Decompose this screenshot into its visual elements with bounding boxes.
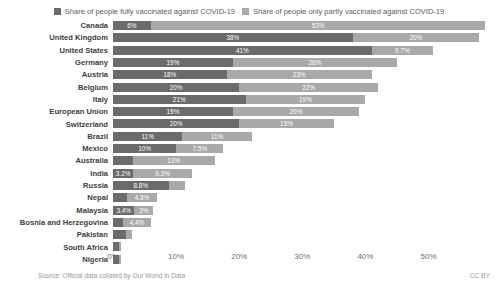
chart-bar-row[interactable]: Canada6%53% [0, 20, 498, 32]
bar-value-label: 26% [308, 58, 321, 67]
bar-value-label: 19% [167, 107, 180, 116]
bar-segment-partly [126, 230, 132, 239]
bar-value-label: 4.8% [135, 193, 150, 202]
category-label: Australia [0, 156, 108, 166]
stacked-bar: 19%26% [113, 58, 397, 67]
category-label: Italy [0, 95, 108, 105]
bar-segment-partly: 19% [246, 95, 366, 104]
stacked-bar: 20%22% [113, 83, 378, 92]
bar-segment-full: 11% [113, 132, 182, 141]
chart-plot-area: Canada6%53%United Kingdom38%20%United St… [0, 20, 498, 250]
chart-bar-row[interactable]: Germany19%26% [0, 57, 498, 69]
stacked-bar: 8.8% [113, 181, 185, 190]
bar-value-label: 3.2% [116, 169, 131, 178]
category-label: Belgium [0, 83, 108, 93]
stacked-bar: 38%20% [113, 33, 479, 42]
bar-segment-full: 20% [113, 83, 239, 92]
legend-label: Share of people only partly vaccinated a… [253, 7, 444, 16]
stacked-bar [113, 230, 132, 239]
bar-segment-partly: 53% [151, 21, 485, 30]
category-label: India [0, 169, 108, 179]
bar-value-label: 19% [299, 95, 312, 104]
bar-value-label: 8.8% [133, 181, 148, 190]
bar-segment-full [113, 193, 127, 202]
bar-segment-full [113, 156, 133, 165]
bar-segment-partly: 11% [182, 132, 251, 141]
x-axis-tick-label: 10% [168, 252, 184, 261]
bar-segment-partly: 7.5% [176, 144, 223, 153]
category-label: United Kingdom [0, 33, 108, 43]
stacked-bar: 19%20% [113, 107, 359, 116]
chart-bar-row[interactable]: Switzerland20%15% [0, 118, 498, 130]
chart-bar-row[interactable]: United States41%9.7% [0, 45, 498, 57]
stacked-bar: 3.4%3% [113, 206, 153, 215]
chart-bar-row[interactable]: European Union19%20% [0, 106, 498, 118]
legend-item-full[interactable]: Share of people fully vaccinated against… [54, 7, 235, 16]
stacked-bar: 10%7.5% [113, 144, 223, 153]
chart-bar-row[interactable]: Mexico10%7.5% [0, 143, 498, 155]
bar-segment-partly: 4.8% [127, 193, 157, 202]
bar-value-label: 20% [170, 83, 183, 92]
chart-bar-row[interactable]: Malaysia3.4%3% [0, 205, 498, 217]
stacked-bar: 4.4% [113, 218, 151, 227]
chart-bar-row[interactable]: United Kingdom38%20% [0, 32, 498, 44]
chart-legend: Share of people fully vaccinated against… [0, 4, 498, 18]
chart-bar-row[interactable]: Pakistan [0, 229, 498, 241]
bar-segment-full: 20% [113, 119, 239, 128]
stacked-bar: 3.2%9.3% [113, 169, 192, 178]
chart-footer: Source: Official data collated by Our Wo… [0, 272, 498, 286]
bar-segment-partly: 20% [353, 33, 479, 42]
chart-bar-row[interactable]: Brazil11%11% [0, 131, 498, 143]
bar-value-label: 15% [280, 119, 293, 128]
stacked-bar: 18%23% [113, 70, 372, 79]
bar-segment-full: 3.2% [113, 169, 133, 178]
x-axis: 0%10%20%30%40%50% [0, 252, 498, 266]
bar-segment-full [113, 218, 123, 227]
bar-segment-full: 38% [113, 33, 353, 42]
bar-value-label: 11% [211, 132, 223, 141]
bar-value-label: 20% [290, 107, 303, 116]
category-label: Canada [0, 21, 108, 31]
bar-value-label: 23% [293, 70, 306, 79]
chart-bar-row[interactable]: Nepal4.8% [0, 192, 498, 204]
legend-item-partly[interactable]: Share of people only partly vaccinated a… [242, 7, 444, 16]
chart-bar-row[interactable]: Russia8.8% [0, 180, 498, 192]
bar-segment-full: 19% [113, 107, 233, 116]
category-label: Austria [0, 70, 108, 80]
stacked-bar [113, 242, 121, 251]
chart-bar-row[interactable]: Austria18%23% [0, 69, 498, 81]
chart-bar-row[interactable]: Australia13% [0, 155, 498, 167]
chart-bar-row[interactable]: India3.2%9.3% [0, 168, 498, 180]
x-axis-tick-label: 20% [231, 252, 247, 261]
bar-segment-partly: 15% [239, 119, 334, 128]
chart-bar-row[interactable]: Italy21%19% [0, 94, 498, 106]
bar-segment-full: 41% [113, 46, 372, 55]
bar-segment-full: 18% [113, 70, 227, 79]
bar-segment-partly: 3% [134, 206, 153, 215]
x-axis-tick-label: 50% [420, 252, 436, 261]
bar-value-label: 18% [163, 70, 176, 79]
category-label: Germany [0, 58, 108, 68]
bar-segment-partly: 20% [233, 107, 359, 116]
bar-segment-partly: 9.3% [133, 169, 192, 178]
bar-value-label: 13% [167, 156, 180, 165]
bar-value-label: 20% [409, 33, 422, 42]
x-axis-tick-label: 40% [357, 252, 373, 261]
bar-segment-partly: 13% [133, 156, 215, 165]
category-label: United States [0, 46, 108, 56]
category-label: Bosnia and Herzegovina [0, 218, 108, 228]
bar-segment-partly: 4.4% [123, 218, 151, 227]
bar-segment-full: 19% [113, 58, 233, 67]
bar-segment-full: 3.4% [113, 206, 134, 215]
category-label: Pakistan [0, 230, 108, 240]
bar-value-label: 4.4% [130, 218, 145, 227]
category-label: Malaysia [0, 206, 108, 216]
bar-value-label: 38% [226, 33, 239, 42]
chart-bar-row[interactable]: Belgium20%22% [0, 82, 498, 94]
stacked-bar: 6%53% [113, 21, 485, 30]
stacked-bar: 13% [113, 156, 215, 165]
chart-bar-row[interactable]: Bosnia and Herzegovina4.4% [0, 217, 498, 229]
stacked-bar: 21%19% [113, 95, 365, 104]
license-note: CC BY [470, 272, 490, 279]
x-axis-tick-label: 0% [107, 252, 119, 261]
